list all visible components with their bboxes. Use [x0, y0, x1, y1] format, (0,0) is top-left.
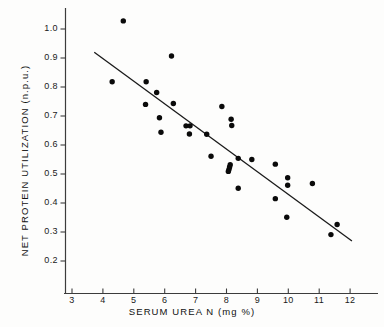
data-point	[143, 79, 148, 84]
data-point	[328, 232, 333, 237]
data-point	[249, 157, 254, 162]
data-point	[204, 132, 209, 137]
data-point	[187, 123, 192, 128]
x-tick-label: 6	[150, 295, 180, 305]
x-tick-label: 12	[335, 295, 365, 305]
data-point	[157, 115, 162, 120]
data-point	[143, 102, 148, 107]
data-point	[219, 104, 224, 109]
data-point	[273, 161, 278, 166]
regression-line-segment	[94, 52, 352, 241]
x-tick-label: 7	[181, 295, 211, 305]
data-points	[109, 18, 339, 237]
data-point	[154, 90, 159, 95]
data-point	[273, 196, 278, 201]
data-point	[169, 53, 174, 58]
y-axis-title: NET PROTEIN UTILIZATION (n.p.u.)	[19, 41, 30, 281]
regression-line	[94, 52, 352, 241]
data-point	[187, 131, 192, 136]
x-tick-label: 11	[304, 295, 334, 305]
x-axis-ticks	[72, 289, 350, 294]
data-point	[229, 123, 234, 128]
data-point	[171, 101, 176, 106]
data-point	[310, 181, 315, 186]
plot-canvas	[0, 0, 384, 327]
x-tick-label: 10	[273, 295, 303, 305]
x-tick-label: 9	[242, 295, 272, 305]
data-point	[284, 215, 289, 220]
data-point	[228, 116, 233, 121]
y-tick-label: 1.0	[18, 23, 58, 33]
data-point	[285, 183, 290, 188]
data-point	[208, 154, 213, 159]
data-point	[236, 156, 241, 161]
x-tick-label: 8	[212, 295, 242, 305]
data-point	[121, 18, 126, 23]
x-tick-label: 5	[119, 295, 149, 305]
data-point	[158, 130, 163, 135]
data-point	[236, 186, 241, 191]
data-point	[109, 79, 114, 84]
x-tick-label: 4	[88, 295, 118, 305]
data-point	[285, 175, 290, 180]
data-point	[226, 169, 231, 174]
scatter-plot-figure: 0.20.30.40.50.60.70.80.91.0 345678910111…	[0, 0, 384, 327]
y-axis-ticks	[61, 29, 66, 261]
x-tick-label: 3	[57, 295, 87, 305]
x-axis-title: SERUM UREA N (mg %)	[0, 306, 384, 317]
data-point	[334, 222, 339, 227]
